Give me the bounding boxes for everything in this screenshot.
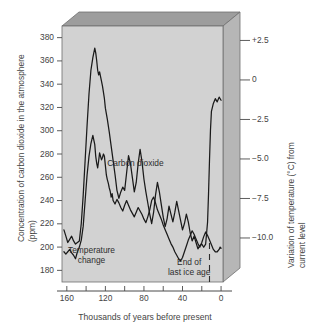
y-axis-right-tick-label: −10.0 <box>252 232 286 242</box>
y-axis-left-tick-label: 180 <box>28 265 54 275</box>
y-axis-right-tick-label: +2.5 <box>252 35 286 45</box>
x-axis-tick-label: 120 <box>92 293 118 303</box>
y-axis-right-ticks <box>240 40 250 238</box>
x-axis-tick-label: 160 <box>54 293 80 303</box>
x-axis-tick-label: 80 <box>131 293 157 303</box>
chart-box-right-face <box>223 12 240 282</box>
annotation-end-of-last-ice-age-line1: End of <box>168 257 210 267</box>
annotation-end-of-last-ice-age: End of last ice age <box>168 257 210 277</box>
x-axis-tick-label: 0 <box>208 293 234 303</box>
x-axis-ticks <box>67 286 221 291</box>
annotation-temperature-change: Temperature change <box>68 245 115 265</box>
x-axis-title: Thousands of years before present <box>0 312 290 322</box>
annotation-carbon-dioxide: Carbon dioxide <box>107 158 163 168</box>
y-axis-left-tick-label: 200 <box>28 242 54 252</box>
y-axis-right-tick-label: −7.5 <box>252 193 286 203</box>
y-axis-left-ticks <box>57 38 62 271</box>
annotation-temperature-change-line2: change <box>68 255 115 265</box>
annotation-end-of-last-ice-age-line2: last ice age <box>168 267 210 277</box>
x-axis-tick-label: 40 <box>170 293 196 303</box>
y-axis-left-title: Concentration of carbon dioxide in the a… <box>16 46 37 242</box>
y-axis-left-tick-label: 380 <box>28 32 54 42</box>
chart-plot-area <box>62 26 223 282</box>
y-axis-right-tick-label: 0 <box>252 74 286 84</box>
y-axis-right-tick-label: −2.5 <box>252 114 286 124</box>
y-axis-right-tick-label: −5.0 <box>252 153 286 163</box>
annotation-temperature-change-line1: Temperature <box>68 245 115 255</box>
chart-box-top-face <box>62 12 240 26</box>
y-axis-right-title: Variation of temperature (°C) from curre… <box>286 118 307 268</box>
chart-figure: 180200220240260280300320340360380 +2.50−… <box>0 0 312 332</box>
